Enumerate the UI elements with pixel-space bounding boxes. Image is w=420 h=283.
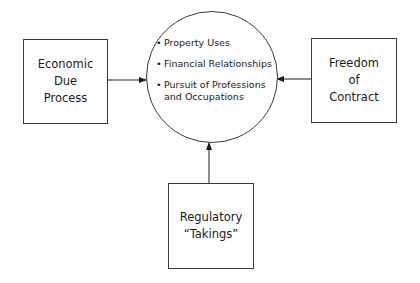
bullet-dot-icon: • bbox=[156, 58, 162, 70]
box-label-line: Economic bbox=[38, 56, 94, 73]
box-label-line: of bbox=[348, 72, 359, 89]
bullet-item-financial-relationships: • Financial Relationships bbox=[156, 58, 272, 70]
protected-interests-circle: • Property Uses • Financial Relationship… bbox=[146, 11, 278, 143]
bullet-dot-icon: • bbox=[156, 37, 162, 49]
bullet-dot-icon: • bbox=[156, 79, 162, 91]
bullet-item-property-uses: • Property Uses bbox=[156, 37, 272, 49]
box-label-line: Contract bbox=[329, 89, 378, 106]
freedom-of-contract-box: Freedom of Contract bbox=[311, 38, 397, 123]
box-label-line: Freedom bbox=[329, 55, 379, 72]
regulatory-takings-box: Regulatory “Takings” bbox=[168, 183, 254, 269]
box-label-line: Regulatory bbox=[180, 209, 242, 226]
box-label-line: “Takings” bbox=[184, 226, 239, 243]
bullet-item-professions: • Pursuit of Professions and Occupations bbox=[156, 79, 272, 103]
box-label-line: Process bbox=[44, 90, 88, 107]
bullet-list: • Property Uses • Financial Relationship… bbox=[156, 37, 272, 112]
box-label-line: Due bbox=[54, 73, 77, 90]
economic-due-process-box: Economic Due Process bbox=[23, 39, 108, 124]
